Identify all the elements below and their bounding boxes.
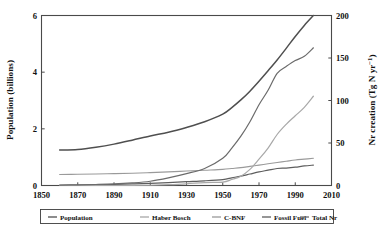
y2-tick-label: 100 bbox=[336, 96, 349, 106]
x-tick-label: 1910 bbox=[142, 190, 159, 200]
y2-tick-label: 150 bbox=[336, 53, 349, 63]
chart-legend: PopulationHaber BoschC-BNFFossil FuelTot… bbox=[41, 210, 338, 224]
x-tick-label: 1970 bbox=[250, 190, 267, 200]
chart-background bbox=[0, 0, 387, 238]
x-tick-label: 1990 bbox=[287, 190, 304, 200]
y-tick-label: 4 bbox=[33, 67, 38, 77]
y-axis-right-title: Nr creation (Tg N yr−1) bbox=[366, 55, 377, 146]
y2-tick-label: 0 bbox=[336, 181, 340, 191]
y-tick-label: 6 bbox=[33, 11, 38, 21]
legend-label-c-bnf: C-BNF bbox=[224, 214, 245, 222]
y-tick-label: 2 bbox=[33, 124, 37, 134]
y-axis-left-title: Population (billions) bbox=[5, 60, 15, 140]
x-tick-label: 1870 bbox=[69, 190, 86, 200]
x-tick-label: 1890 bbox=[105, 190, 122, 200]
x-tick-label: 1930 bbox=[178, 190, 195, 200]
legend-label-haber-bosch: Haber Bosch bbox=[152, 214, 191, 222]
y2-tick-label: 200 bbox=[336, 11, 349, 21]
legend-label-population: Population bbox=[60, 214, 93, 222]
legend-label-total-nr: Total Nr bbox=[312, 214, 337, 222]
x-tick-label: 1950 bbox=[214, 190, 231, 200]
y2-tick-label: 50 bbox=[336, 138, 345, 148]
nitrogen-population-chart: 185018701890191019301950197019902010 024… bbox=[0, 0, 387, 238]
x-axis-tick-labels: 185018701890191019301950197019902010 bbox=[33, 190, 340, 200]
y-tick-label: 0 bbox=[33, 181, 37, 191]
x-tick-label: 1850 bbox=[33, 190, 50, 200]
x-tick-label: 2010 bbox=[323, 190, 340, 200]
